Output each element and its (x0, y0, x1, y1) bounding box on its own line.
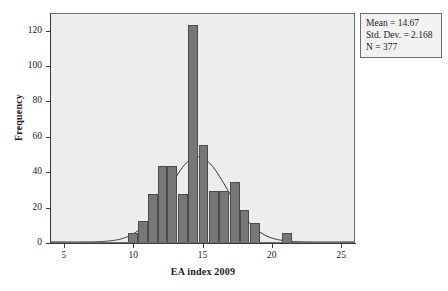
x-axis-tick (272, 244, 273, 248)
histogram-bar (178, 194, 188, 243)
x-axis-title: EA index 2009 (50, 266, 356, 277)
histogram-figure: 510152025 020406080100120 EA index 2009 … (0, 0, 448, 291)
x-axis-tick (64, 244, 65, 248)
y-axis-tick-label: 20 (16, 202, 42, 212)
statistics-box: Mean = 14.67 Std. Dev. = 2.168 N = 377 (360, 13, 442, 58)
histogram-bar (158, 166, 168, 243)
x-axis-tick-label: 5 (49, 250, 79, 260)
histogram-bar (138, 221, 148, 243)
y-axis-line (50, 13, 51, 244)
y-axis-tick (46, 172, 50, 173)
y-axis-tick (46, 208, 50, 209)
x-axis-tick (133, 244, 134, 248)
histogram-bar (128, 233, 138, 243)
stat-std-dev: Std. Dev. = 2.168 (366, 29, 437, 41)
x-axis-tick-label: 20 (257, 250, 287, 260)
histogram-bar (282, 233, 292, 243)
y-axis-tick-label: 0 (16, 237, 42, 247)
stat-mean: Mean = 14.67 (366, 17, 437, 29)
y-axis-tick (46, 31, 50, 32)
histogram-bar (209, 191, 219, 243)
histogram-bar (188, 25, 198, 243)
x-axis-tick-label: 10 (118, 250, 148, 260)
histogram-bar (240, 210, 250, 243)
y-axis-tick (46, 137, 50, 138)
y-axis-tick (46, 243, 50, 244)
histogram-bar (148, 194, 158, 243)
histogram-bar (167, 166, 177, 243)
x-axis-tick-label: 15 (188, 250, 218, 260)
histogram-bar (219, 191, 229, 243)
y-axis-tick-label: 120 (16, 25, 42, 35)
histogram-bar (230, 182, 240, 243)
histogram-bar (250, 223, 260, 243)
histogram-bar (199, 145, 209, 243)
x-axis-tick-label: 25 (326, 250, 356, 260)
y-axis-title: Frequency (13, 68, 24, 168)
y-axis-tick-label: 40 (16, 166, 42, 176)
stat-n: N = 377 (366, 41, 437, 53)
plot-area (50, 13, 355, 243)
x-axis-tick (341, 244, 342, 248)
y-axis-tick (46, 101, 50, 102)
x-axis-tick (203, 244, 204, 248)
y-axis-tick (46, 66, 50, 67)
